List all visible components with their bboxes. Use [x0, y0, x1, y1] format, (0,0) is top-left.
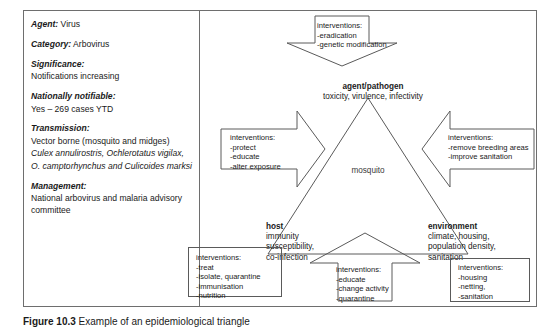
- transmission-value: Vector borne (mosquito and midges): [31, 135, 195, 147]
- callout-environment-right-text: interventions: -remove breeding areas -i…: [448, 133, 529, 162]
- callout-host-bottom-item-3: -nutrition: [196, 291, 261, 301]
- callout-host-bottom-item-1: -isolate, quarantine: [196, 272, 261, 282]
- callout-environment-bottom-item-1: -netting,: [458, 282, 503, 292]
- vertex-environment-line2: population density,: [428, 242, 536, 252]
- agent-label: Agent:: [31, 19, 58, 29]
- callout-agent-text: interventions: -eradication -genetic mod…: [317, 21, 387, 50]
- notifiable-label: Nationally notifiable:: [31, 90, 195, 102]
- info-row-transmission: Transmission: Vector borne (mosquito and…: [31, 122, 195, 172]
- vertex-label-agent: agent/pathogen toxicity, virulence, infe…: [308, 82, 438, 102]
- agent-info-panel: Agent: Virus Category: Arbovirus Signifi…: [31, 18, 195, 293]
- callout-host-bottom-interventions: interventions: -treat -isolate, quaranti…: [188, 247, 282, 297]
- callout-host-left-item-2: -alter exposure: [230, 162, 281, 172]
- transmission-label: Transmission:: [31, 122, 195, 134]
- callout-host-left-item-1: -educate: [230, 152, 281, 162]
- callout-host-bottom-item-2: -immunisation: [196, 282, 261, 292]
- figure-caption-text: Example of an epidemiological triangle: [76, 316, 250, 327]
- significance-value: Notifications increasing: [31, 70, 195, 82]
- callout-center-bottom-item-1: -change activity: [336, 284, 389, 294]
- callout-center-bottom-heading: interventions:: [336, 265, 389, 275]
- callout-environment-bottom-item-2: -sanitation: [458, 292, 503, 302]
- callout-environment-right-item-1: -improve sanitation: [448, 152, 529, 162]
- info-row-category: Category: Arbovirus: [31, 38, 195, 50]
- callout-host-bottom-item-0: -treat: [196, 263, 261, 273]
- agent-value: Virus: [58, 19, 80, 29]
- vertex-agent-title: agent/pathogen: [308, 82, 438, 92]
- callout-environment-bottom-text: interventions: -housing -netting, -sanit…: [458, 263, 503, 301]
- info-row-notifiable: Nationally notifiable: Yes – 269 cases Y…: [31, 90, 195, 115]
- callout-host-bottom-heading: interventions:: [196, 253, 261, 263]
- info-row-significance: Significance: Notifications increasing: [31, 58, 195, 83]
- vertex-host-title: host: [266, 222, 361, 232]
- callout-host-bottom-text: interventions: -treat -isolate, quaranti…: [196, 253, 261, 301]
- info-row-agent: Agent: Virus: [31, 18, 195, 30]
- vertex-environment-line1: climate, housing,: [428, 232, 536, 242]
- figure-caption: Figure 10.3 Example of an epidemiologica…: [23, 315, 543, 328]
- callout-environment-bottom-heading: interventions:: [458, 263, 503, 273]
- callout-host-left-interventions: interventions: -protect -educate -alter …: [221, 121, 325, 177]
- callout-environment-right-interventions: interventions: -remove breeding areas -i…: [424, 121, 534, 177]
- vertex-host-line1: immunity: [266, 232, 361, 242]
- callout-center-bottom-item-2: -quarantine: [336, 294, 389, 304]
- callout-host-left-text: interventions: -protect -educate -alter …: [230, 133, 281, 171]
- callout-agent-heading: interventions:: [317, 21, 387, 31]
- callout-center-bottom-interventions: interventions: -educate -change activity…: [316, 245, 414, 301]
- callout-agent-interventions: interventions: -eradication -genetic mod…: [301, 16, 397, 66]
- vertex-agent-subtitle: toxicity, virulence, infectivity: [308, 92, 438, 102]
- category-value: Arbovirus: [71, 39, 109, 49]
- callout-environment-right-item-0: -remove breeding areas: [448, 143, 529, 153]
- figure-root: Agent: Virus Category: Arbovirus Signifi…: [0, 0, 560, 330]
- figure-caption-number: Figure 10.3: [23, 316, 76, 327]
- callout-host-left-item-0: -protect: [230, 143, 281, 153]
- vertex-environment-title: environment: [428, 222, 536, 232]
- transmission-species: Culex annulirostris, Ochlerotatus vigila…: [31, 147, 195, 172]
- callout-agent-item-1: -genetic modification: [317, 40, 387, 50]
- callout-environment-bottom-interventions: interventions: -housing -netting, -sanit…: [450, 258, 530, 302]
- callout-host-left-heading: interventions:: [230, 133, 281, 143]
- management-value: National arbovirus and malaria advisory …: [31, 192, 195, 217]
- info-row-management: Management: National arbovirus and malar…: [31, 180, 195, 217]
- notifiable-value: Yes – 269 cases YTD: [31, 103, 195, 115]
- callout-center-bottom-text: interventions: -educate -change activity…: [336, 265, 389, 303]
- significance-label: Significance:: [31, 58, 195, 70]
- callout-center-bottom-item-0: -educate: [336, 275, 389, 285]
- callout-environment-right-heading: interventions:: [448, 133, 529, 143]
- triangle-center-label: mosquito: [318, 166, 418, 175]
- management-label: Management:: [31, 180, 195, 192]
- vertex-label-environment: environment climate, housing, population…: [428, 222, 536, 263]
- callout-agent-item-0: -eradication: [317, 31, 387, 41]
- callout-environment-bottom-item-0: -housing: [458, 273, 503, 283]
- category-label: Category:: [31, 39, 71, 49]
